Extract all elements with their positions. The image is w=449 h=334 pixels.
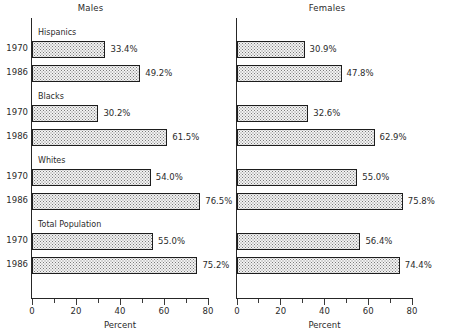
bar-row: 55.0% [237,169,412,186]
bar-value-label: 49.2% [145,68,172,78]
bar-row: 56.4% [237,233,412,250]
bar [32,41,105,58]
x-tick-minor [302,299,303,303]
bar-value-label: 74.4% [405,260,432,270]
x-tick-label: 0 [29,306,34,316]
year-label: 1986 [6,67,28,77]
x-tick-major [76,299,77,305]
bar-row: 197055.0% [32,233,208,250]
x-tick-minor [390,299,391,303]
year-label: 1986 [6,131,28,141]
bar-row: 75.8% [237,193,412,210]
bar [32,105,98,122]
x-tick-label: 80 [407,306,418,316]
plot-area: 30.9%47.8%32.6%62.9%55.0%75.8%56.4%74.4%… [237,18,412,298]
bar-value-label: 30.2% [103,108,130,118]
bar-row: 198649.2% [32,65,208,82]
x-tick-minor [98,299,99,303]
bar-row: 197054.0% [32,169,208,186]
bar-value-label: 30.9% [310,44,337,54]
bar-value-label: 32.6% [313,108,340,118]
x-tick-label: 20 [275,306,286,316]
year-label: 1986 [6,259,28,269]
bar-row: 32.6% [237,105,412,122]
bar-value-label: 54.0% [156,172,183,182]
bar-row: 198675.2% [32,257,208,274]
bar [237,129,375,146]
x-tick-major [368,299,369,305]
bar-row: 62.9% [237,129,412,146]
year-label: 1970 [6,107,28,117]
bar-chart-figure: MalesHispanics197033.4%198649.2%Blacks19… [0,0,449,334]
bar-row: 47.8% [237,65,412,82]
panel-title: Females [215,3,439,13]
panel-title: Males [0,3,203,13]
x-tick-minor [142,299,143,303]
x-tick-minor [346,299,347,303]
y-axis-line [236,18,237,298]
y-axis-line [31,18,32,298]
category-label: Whites [38,156,65,165]
category-label: Blacks [38,92,64,101]
x-tick-major [237,299,238,305]
bar-value-label: 55.0% [362,172,389,182]
bar-row: 74.4% [237,257,412,274]
plot-area: Hispanics197033.4%198649.2%Blacks197030.… [32,18,208,298]
bar-value-label: 56.4% [365,236,392,246]
year-label: 1970 [6,235,28,245]
x-tick-major [164,299,165,305]
x-tick-major [120,299,121,305]
bar-row: 197030.2% [32,105,208,122]
x-tick-label: 40 [319,306,330,316]
bar-value-label: 62.9% [380,132,407,142]
x-tick-major [32,299,33,305]
bar [237,105,308,122]
x-axis-title: Percent [32,320,208,330]
category-label: Hispanics [38,28,76,37]
panel-females: Females30.9%47.8%32.6%62.9%55.0%75.8%56.… [225,0,449,334]
bar-row: 30.9% [237,41,412,58]
bar [237,41,305,58]
bar [32,193,200,210]
bar-row: 197033.4% [32,41,208,58]
bar-row: 198676.5% [32,193,208,210]
bar [237,257,400,274]
bar [237,169,357,186]
x-tick-label: 60 [363,306,374,316]
x-tick-label: 80 [203,306,214,316]
x-tick-label: 40 [115,306,126,316]
bar [32,129,167,146]
year-label: 1986 [6,195,28,205]
bar-value-label: 61.5% [172,132,199,142]
x-tick-label: 0 [234,306,239,316]
bar [237,233,360,250]
bar [32,233,153,250]
x-axis-title: Percent [237,320,412,330]
x-tick-minor [186,299,187,303]
x-tick-major [280,299,281,305]
bar-value-label: 55.0% [158,236,185,246]
x-tick-label: 60 [159,306,170,316]
x-tick-minor [54,299,55,303]
x-tick-label: 20 [71,306,82,316]
bar-value-label: 33.4% [110,44,137,54]
bar [32,169,151,186]
bar-value-label: 75.8% [408,196,435,206]
bar-row: 198661.5% [32,129,208,146]
x-tick-minor [258,299,259,303]
panel-males: MalesHispanics197033.4%198649.2%Blacks19… [0,0,225,334]
x-tick-major [208,299,209,305]
year-label: 1970 [6,171,28,181]
x-tick-major [324,299,325,305]
x-tick-major [412,299,413,305]
bar [237,193,403,210]
year-label: 1970 [6,43,28,53]
bar [237,65,342,82]
bar [32,257,197,274]
bar-value-label: 47.8% [347,68,374,78]
category-label: Total Population [38,220,101,229]
bar [32,65,140,82]
